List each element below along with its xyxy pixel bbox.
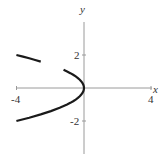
y-tick-label-neg2: -2: [70, 115, 79, 127]
y-tick-label-2: 2: [74, 49, 80, 61]
y-axis-label: y: [79, 3, 85, 15]
plot-svg: y x -4 4 2 -2: [0, 0, 167, 155]
curve-upper-branch-near: [64, 70, 84, 88]
x-tick-label-neg4: -4: [11, 93, 21, 105]
parabola-graph: y x -4 4 2 -2: [0, 0, 167, 155]
x-tick-label-4: 4: [148, 93, 154, 105]
curve-upper-branch-far: [16, 55, 40, 62]
